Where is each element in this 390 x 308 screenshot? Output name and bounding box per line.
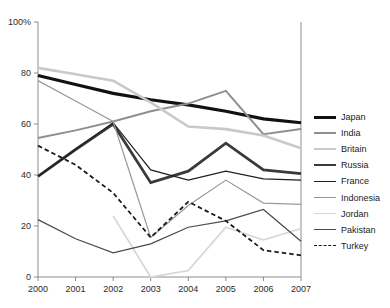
legend-item-label: Pakistan — [341, 225, 376, 235]
legend-item-label: France — [341, 176, 369, 186]
legend-item-label: Indonesia — [341, 193, 380, 203]
series-line-pakistan — [38, 209, 301, 252]
legend-item-label: India — [341, 128, 361, 138]
legend-item-label: Turkey — [341, 241, 368, 251]
legend-item-label: Jordan — [341, 209, 369, 219]
y-tick-label: 20 — [21, 221, 31, 231]
x-tick-label: 2000 — [28, 284, 48, 294]
x-tick-label: 2003 — [141, 284, 161, 294]
legend-item-india[interactable]: India — [314, 125, 390, 141]
legend-item-pakistan[interactable]: Pakistan — [314, 222, 390, 238]
line-chart: 020406080100% 20002001200220032004200520… — [0, 0, 390, 308]
x-tick-label: 2002 — [103, 284, 123, 294]
legend-item-britain[interactable]: Britain — [314, 141, 390, 157]
legend-item-jordan[interactable]: Jordan — [314, 206, 390, 222]
x-axis: 20002001200220032004200520062007 — [28, 22, 311, 294]
legend-swatch-icon — [314, 245, 336, 246]
legend-swatch-icon — [314, 197, 336, 198]
legend-swatch-icon — [314, 116, 336, 119]
series-line-indonesia — [38, 81, 301, 238]
x-tick-label: 2006 — [253, 284, 273, 294]
legend-item-france[interactable]: France — [314, 173, 390, 189]
legend-swatch-icon — [314, 164, 336, 166]
x-tick-label: 2001 — [66, 284, 86, 294]
legend-swatch-icon — [314, 213, 336, 214]
x-tick-label: 2007 — [291, 284, 311, 294]
legend-item-russia[interactable]: Russia — [314, 157, 390, 173]
legend-swatch-icon — [314, 181, 336, 182]
x-tick-label: 2005 — [216, 284, 236, 294]
legend-swatch-icon — [314, 148, 336, 150]
legend-item-japan[interactable]: Japan — [314, 109, 390, 125]
legend-item-label: Japan — [341, 112, 366, 122]
y-tick-label: 100% — [8, 17, 31, 27]
legend-item-label: Russia — [341, 160, 369, 170]
x-tick-label: 2004 — [178, 284, 198, 294]
legend-item-turkey[interactable]: Turkey — [314, 238, 390, 254]
y-tick-label: 0 — [26, 272, 31, 282]
data-series-group — [38, 68, 301, 277]
legend-item-label: Britain — [341, 144, 367, 154]
y-tick-label: 80 — [21, 68, 31, 78]
legend-item-indonesia[interactable]: Indonesia — [314, 189, 390, 205]
legend-swatch-icon — [314, 132, 336, 134]
chart-legend: JapanIndiaBritainRussiaFranceIndonesiaJo… — [314, 109, 390, 254]
legend-swatch-icon — [314, 229, 336, 230]
y-tick-label: 60 — [21, 119, 31, 129]
y-axis: 020406080100% — [8, 17, 38, 282]
y-tick-label: 40 — [21, 170, 31, 180]
